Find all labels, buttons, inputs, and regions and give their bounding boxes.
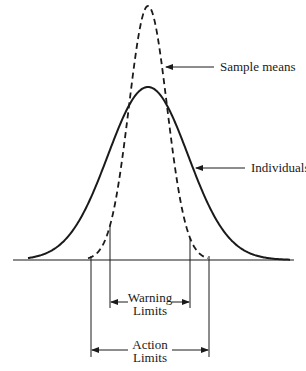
- individuals-label: Individuals: [251, 161, 306, 174]
- warning-limits-label-line2: Limits: [133, 304, 167, 317]
- sample-means-label: Sample means: [220, 60, 295, 73]
- sample-means-curve: [88, 6, 208, 258]
- action-limits-label-line2: Limits: [133, 351, 167, 364]
